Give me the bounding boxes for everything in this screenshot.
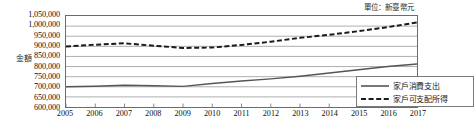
legend-label-disposable-income: 家戶可支配所得 bbox=[393, 93, 448, 104]
legend-label-consumption: 家戶消費支出 bbox=[393, 80, 440, 91]
y-tick-label: 700,000 bbox=[34, 82, 60, 91]
legend-swatch-dashed-icon bbox=[360, 94, 390, 104]
legend-item: 家戶可支配所得 bbox=[360, 92, 470, 105]
y-tick-label: 750,000 bbox=[34, 72, 60, 81]
x-tick-label: 2012 bbox=[263, 109, 279, 118]
y-tick-label: 800,000 bbox=[34, 61, 60, 70]
x-tick-label: 2013 bbox=[292, 109, 308, 118]
x-axis-tick-labels: 2005200620072008200920102011201220132014… bbox=[65, 109, 418, 125]
x-tick-label: 2017 bbox=[410, 109, 426, 118]
x-tick-label: 2008 bbox=[145, 109, 161, 118]
x-tick-label: 2011 bbox=[233, 109, 249, 118]
y-tick-label: 900,000 bbox=[34, 41, 60, 50]
x-tick-label: 2009 bbox=[174, 109, 190, 118]
x-tick-label: 2005 bbox=[57, 109, 73, 118]
y-tick-label: 1,000,000 bbox=[28, 20, 60, 29]
x-tick-label: 2016 bbox=[380, 109, 396, 118]
y-tick-label: 650,000 bbox=[34, 92, 60, 101]
x-tick-label: 2014 bbox=[322, 109, 338, 118]
x-tick-label: 2006 bbox=[86, 109, 102, 118]
legend-swatch-solid-icon bbox=[360, 81, 390, 91]
y-tick-label: 850,000 bbox=[34, 51, 60, 60]
legend: 家戶消費支出 家戶可支配所得 bbox=[356, 76, 474, 107]
line-chart: 單位：新臺幣元 金額 1,050,0001,000,000950,000900,… bbox=[0, 0, 476, 128]
unit-annotation: 單位：新臺幣元 bbox=[364, 1, 414, 12]
x-tick-label: 2010 bbox=[204, 109, 220, 118]
x-tick-label: 2015 bbox=[351, 109, 367, 118]
y-axis-tick-labels: 1,050,0001,000,000950,000900,000850,0008… bbox=[0, 14, 62, 108]
x-tick-label: 2007 bbox=[116, 109, 132, 118]
y-tick-label: 1,050,000 bbox=[28, 10, 60, 19]
y-tick-label: 950,000 bbox=[34, 30, 60, 39]
legend-item: 家戶消費支出 bbox=[360, 79, 470, 92]
